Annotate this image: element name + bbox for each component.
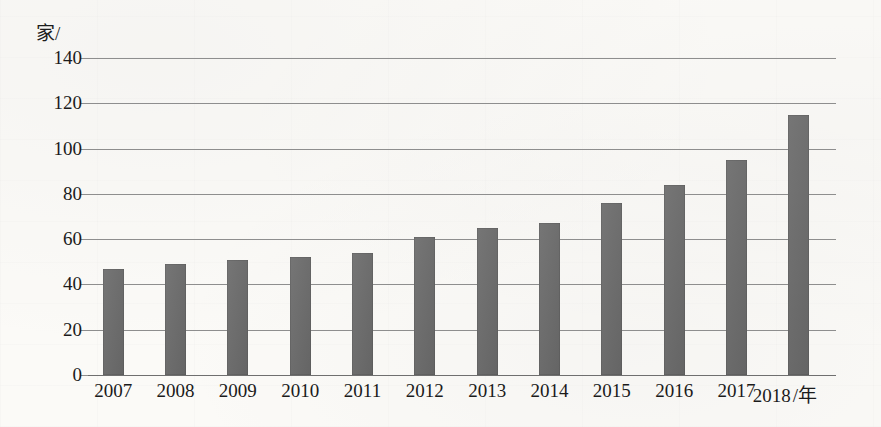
x-axis-tick-label-2007: 2007: [94, 380, 132, 402]
bar-2013: [477, 228, 498, 375]
gridline: [88, 58, 836, 59]
y-axis-tickmark: [81, 58, 88, 59]
gridline: [88, 149, 836, 150]
x-axis-tick-label-text: 2018: [753, 385, 791, 406]
gridline: [88, 330, 836, 331]
y-axis-tick-label: 100: [30, 138, 82, 160]
x-axis-baseline: [88, 375, 836, 376]
y-axis-tickmark: [81, 103, 88, 104]
y-axis-tickmark: [81, 330, 88, 331]
y-axis-tickmark: [81, 284, 88, 285]
x-axis-tick-label-2013: 2013: [468, 380, 506, 402]
x-axis-tick-label-2010: 2010: [281, 380, 319, 402]
gridline: [88, 103, 836, 104]
x-axis-tick-label-2014: 2014: [531, 380, 569, 402]
y-axis-tick-label: 140: [30, 47, 82, 69]
bar-2010: [290, 257, 311, 375]
x-axis-tick-label-2018: 2018/年: [753, 380, 817, 407]
bar-2015: [601, 203, 622, 375]
x-axis-tick-label-2016: 2016: [655, 380, 693, 402]
y-axis-tickmark: [81, 375, 88, 376]
x-axis-tick-label-2012: 2012: [406, 380, 444, 402]
bar-2014: [539, 223, 560, 375]
bar-2018: [788, 115, 809, 375]
bar-2008: [165, 264, 186, 375]
y-axis-tickmark: [81, 239, 88, 240]
y-axis-tick-label: 60: [30, 228, 82, 250]
bar-2017: [726, 160, 747, 375]
gridline: [88, 239, 836, 240]
bar-2011: [352, 253, 373, 375]
y-axis-tick-label: 80: [30, 183, 82, 205]
chart-page: 家/ 020406080100120140 200720082009201020…: [0, 0, 881, 427]
y-axis-unit-label: 家/: [36, 18, 60, 45]
x-axis-tick-label-2009: 2009: [219, 380, 257, 402]
y-axis-tick-label: 0: [30, 364, 82, 386]
y-axis-tickmark: [81, 194, 88, 195]
bar-2016: [664, 185, 685, 375]
y-axis-tickmark: [81, 149, 88, 150]
gridline: [88, 194, 836, 195]
x-axis-tick-label-2017: 2017: [718, 380, 756, 402]
bar-2012: [414, 237, 435, 375]
bar-2009: [227, 260, 248, 375]
y-axis-tick-label: 40: [30, 273, 82, 295]
x-axis-unit-label: /年: [793, 385, 817, 406]
x-axis-tick-label-2015: 2015: [593, 380, 631, 402]
y-axis-tick-label: 20: [30, 319, 82, 341]
gridline: [88, 284, 836, 285]
x-axis-tick-label-2011: 2011: [344, 380, 381, 402]
y-axis-tick-label: 120: [30, 92, 82, 114]
bar-chart: 家/ 020406080100120140 200720082009201020…: [0, 0, 881, 427]
x-axis-tick-label-2008: 2008: [157, 380, 195, 402]
bar-2007: [103, 269, 124, 375]
